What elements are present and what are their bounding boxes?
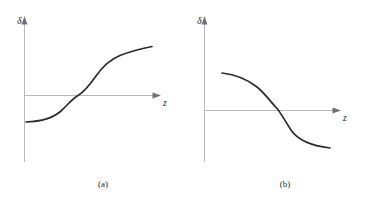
x-axis-label-b: z [343, 114, 347, 124]
y-axis-label-a: δ [17, 16, 22, 26]
panel-caption-b: (b) [265, 180, 305, 189]
curve-a [26, 47, 152, 123]
x-axis-label-a: z [163, 99, 167, 109]
y-axis-arrowhead-b [202, 16, 208, 25]
x-axis-arrowhead-a [153, 93, 162, 99]
chart-panel-b: δ z (b) [185, 0, 370, 205]
plot-a [0, 0, 185, 205]
y-axis-arrowhead-a [22, 16, 28, 25]
y-axis-label-b: δ [197, 16, 202, 26]
x-axis-arrowhead-b [333, 108, 342, 114]
figure-container: δ z (a) δ z (b) [0, 0, 370, 205]
panel-caption-a: (a) [83, 180, 123, 189]
plot-b [185, 0, 370, 205]
chart-panel-a: δ z (a) [0, 0, 185, 205]
